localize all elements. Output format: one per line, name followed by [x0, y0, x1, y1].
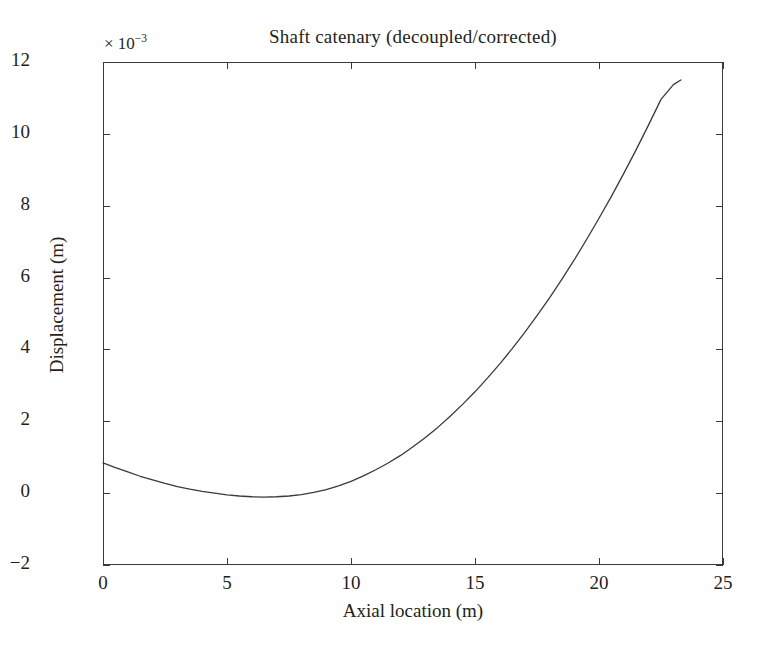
- x-tick-top-15: [475, 62, 476, 69]
- x-tick-top-10: [351, 62, 352, 69]
- y-axis-title: Displacement (m): [46, 165, 68, 445]
- y-tick-right-8: [716, 206, 723, 207]
- y-tick-10: [103, 134, 110, 135]
- y-tick-right-6: [716, 278, 723, 279]
- y-tick-0: [103, 493, 110, 494]
- y-tick-4: [103, 349, 110, 350]
- x-tick-10: [351, 558, 352, 565]
- y-tick-label-0: 0: [0, 480, 30, 502]
- y-tick-label-2: 2: [0, 408, 30, 430]
- y-tick-−2: [103, 565, 110, 566]
- x-tick-top-0: [103, 62, 104, 69]
- x-tick-label-5: 5: [197, 572, 257, 594]
- shaft-catenary-curve: [103, 80, 681, 497]
- y-axis-multiplier-base: × 10: [104, 34, 135, 53]
- y-tick-label-4: 4: [0, 336, 30, 358]
- y-tick-label-10: 10: [0, 121, 30, 143]
- y-tick-right-0: [716, 493, 723, 494]
- y-tick-right-12: [716, 62, 723, 63]
- chart-figure: Shaft catenary (decoupled/corrected) × 1…: [0, 0, 765, 652]
- y-tick-label-6: 6: [0, 265, 30, 287]
- x-tick-label-20: 20: [569, 572, 629, 594]
- x-tick-top-25: [723, 62, 724, 69]
- x-tick-15: [475, 558, 476, 565]
- y-tick-right-4: [716, 349, 723, 350]
- y-tick-right-−2: [716, 565, 723, 566]
- plot-curve-canvas: [103, 62, 723, 565]
- y-tick-6: [103, 278, 110, 279]
- x-tick-top-20: [599, 62, 600, 69]
- x-tick-label-0: 0: [73, 572, 133, 594]
- x-tick-5: [227, 558, 228, 565]
- y-tick-label-12: 12: [0, 49, 30, 71]
- x-tick-label-10: 10: [321, 572, 381, 594]
- y-tick-right-2: [716, 421, 723, 422]
- y-axis-multiplier: × 10−3: [104, 32, 147, 54]
- x-tick-label-15: 15: [445, 572, 505, 594]
- x-axis-title: Axial location (m): [103, 600, 723, 622]
- x-tick-top-5: [227, 62, 228, 69]
- y-tick-8: [103, 206, 110, 207]
- y-tick-label-−2: −2: [0, 552, 30, 574]
- y-tick-right-10: [716, 134, 723, 135]
- x-tick-0: [103, 558, 104, 565]
- x-tick-25: [723, 558, 724, 565]
- y-tick-12: [103, 62, 110, 63]
- x-tick-20: [599, 558, 600, 565]
- y-tick-2: [103, 421, 110, 422]
- x-tick-label-25: 25: [693, 572, 753, 594]
- chart-title: Shaft catenary (decoupled/corrected): [103, 26, 723, 48]
- y-tick-label-8: 8: [0, 193, 30, 215]
- y-axis-multiplier-exponent: −3: [135, 32, 147, 44]
